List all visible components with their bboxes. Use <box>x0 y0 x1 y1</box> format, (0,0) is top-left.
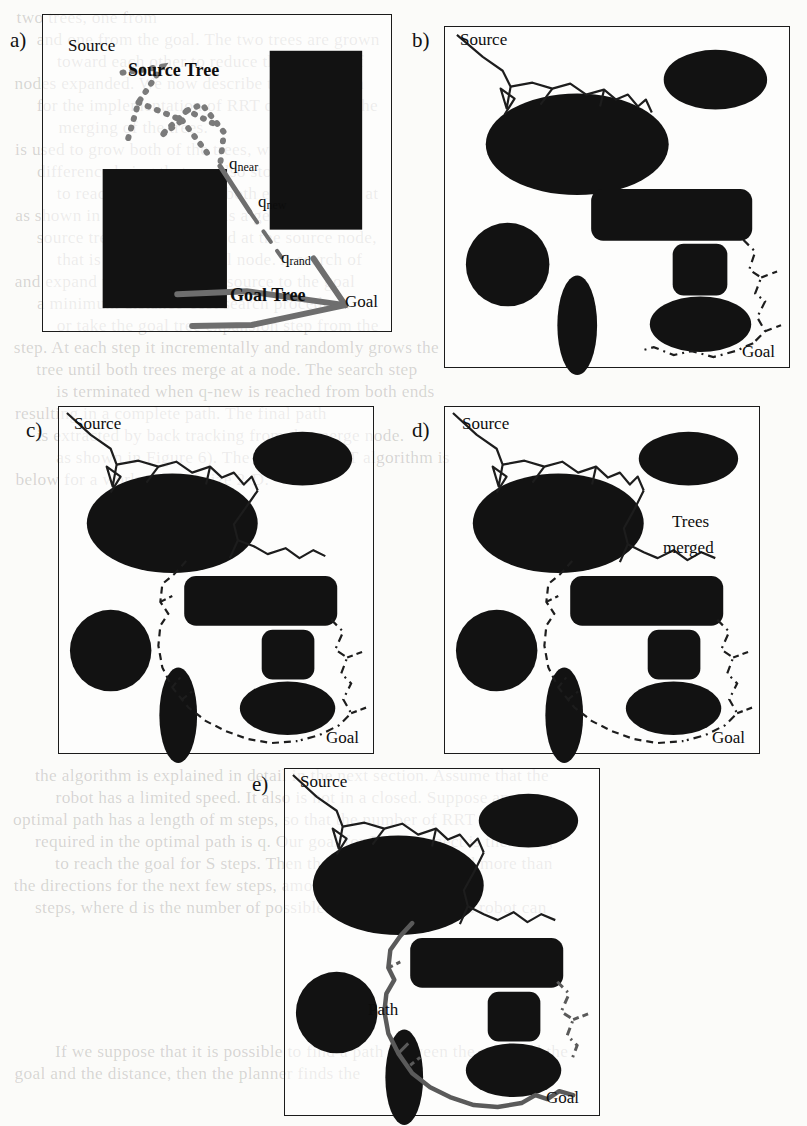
panel-c-graphics <box>59 407 373 753</box>
panel-d <box>444 406 760 754</box>
bleed-text-line: tree until both trees merge at a node. T… <box>36 360 417 380</box>
panel-c-stage <box>59 407 373 753</box>
obstacle-ellipse-top-right <box>639 432 738 486</box>
obstacle-rounded-bar <box>410 938 563 988</box>
goal-tree-right-spur <box>347 652 363 658</box>
goal-tree-right-spur <box>733 652 749 658</box>
panel-c-letter: c) <box>26 418 42 443</box>
panel-c-goal-label: Goal <box>326 728 359 748</box>
goal-tree-right-spur-2 <box>737 707 753 713</box>
panel-a-goal-label: Goal <box>345 292 378 312</box>
goal-tree-spur <box>761 272 777 278</box>
obstacle-ellipse-bottom-right <box>626 681 721 735</box>
panel-c <box>58 406 374 754</box>
goal-tree-right-remnant-spur <box>573 1014 589 1020</box>
obstacle-ellipse-narrow <box>545 667 583 762</box>
goal-tree-lower <box>765 325 781 331</box>
bleed-text-line: step. At each step it incrementally and … <box>14 338 439 358</box>
panel-a-qnew-label: qnew <box>258 192 287 213</box>
panel-d-stage <box>445 407 759 753</box>
obstacle-small-square <box>673 244 728 296</box>
obstacle-rounded-bar <box>184 576 337 626</box>
panel-e-letter: e) <box>252 772 268 797</box>
panel-c-source-label: Source <box>74 414 121 434</box>
panel-b-letter: b) <box>412 28 430 53</box>
panel-e <box>284 768 600 1116</box>
goal-tree-right-spur-2 <box>351 707 367 713</box>
obstacle-ellipse-big <box>486 94 669 195</box>
panel-b-source-label: Source <box>460 30 507 50</box>
goal-tree-branch-upper <box>313 258 345 305</box>
panel-a-qnear-label: qnear <box>229 154 258 175</box>
panel-e-source-label: Source <box>300 772 347 792</box>
obstacle-ellipse-bottom-right <box>650 296 751 352</box>
obstacle-circle-left <box>70 610 151 692</box>
goal-tree-branch-lower <box>192 305 345 326</box>
obstacle-ellipse-top-right <box>479 794 578 848</box>
obstacle-small-square <box>648 630 701 680</box>
obstacle-circle-left <box>466 223 550 307</box>
obstacle-circle-left <box>296 972 377 1054</box>
panel-a-source-label: Source <box>68 36 115 56</box>
obstacle-ellipse-top-right <box>664 50 767 110</box>
panel-d-trees-merged-line1: Trees <box>672 512 709 532</box>
panel-a-goal-tree-label: Goal Tree <box>230 285 306 306</box>
obstacle-rounded-bar <box>570 576 723 626</box>
obstacle-rounded-bar <box>591 189 752 241</box>
goal-tree-right-remnant <box>557 982 577 1062</box>
panel-e-path-label: Path <box>368 1000 398 1020</box>
panel-e-stage <box>285 769 599 1115</box>
obstacle-ellipse-narrow <box>557 276 597 375</box>
panel-b-goal-label: Goal <box>742 342 775 362</box>
source-tree-branch-lower <box>182 120 208 154</box>
panel-d-trees-merged-line2: merged <box>663 538 714 558</box>
panel-b-graphics <box>445 27 789 367</box>
obstacle-ellipse-top-right <box>253 432 352 486</box>
panel-a-qrand-label: qrand <box>281 248 311 269</box>
panel-b <box>444 26 790 368</box>
panel-e-graphics <box>285 769 599 1115</box>
obstacle-small-square <box>262 630 315 680</box>
obstacle-ellipse-bottom-right <box>240 681 335 735</box>
obstacle-circle-left <box>456 610 537 692</box>
panel-d-letter: d) <box>412 418 430 443</box>
panel-d-source-label: Source <box>462 414 509 434</box>
bleed-text-line: is terminated when q-new is reached from… <box>56 382 434 402</box>
goal-tree-spur-1 <box>546 596 558 602</box>
panel-a-letter: a) <box>10 28 26 53</box>
obstacle-ellipse-narrow <box>159 667 197 762</box>
panel-e-goal-label: Goal <box>546 1088 579 1108</box>
panel-d-graphics <box>445 407 759 753</box>
panel-d-goal-label: Goal <box>712 728 745 748</box>
panel-a-source-tree-label: Source Tree <box>128 60 219 81</box>
obstacle-small-square <box>488 992 541 1042</box>
goal-tree-spur-1 <box>160 596 172 602</box>
panel-b-stage <box>445 27 789 367</box>
obstacle-rect-left <box>103 169 227 308</box>
